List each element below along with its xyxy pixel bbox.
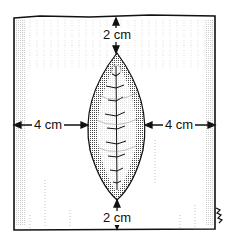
bottom-margin-label: 2 cm <box>103 211 131 225</box>
right-margin-label: 4 cm <box>163 118 195 132</box>
left-margin-label: 4 cm <box>32 118 64 132</box>
top-margin-label: 2 cm <box>103 28 131 42</box>
